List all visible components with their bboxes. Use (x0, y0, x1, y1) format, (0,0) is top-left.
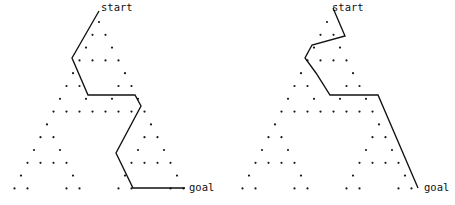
lattice-dot (319, 34, 321, 36)
lattice-dot (274, 123, 276, 125)
left-route-polyline (72, 11, 185, 188)
lattice-dot (72, 175, 74, 177)
lattice-dot (143, 136, 145, 138)
lattice-dot (358, 162, 360, 164)
lattice-dot (365, 98, 367, 100)
lattice-dot (332, 59, 334, 61)
lattice-dot (85, 47, 87, 49)
lattice-dot (124, 175, 126, 177)
lattice-dot (352, 72, 354, 74)
lattice-dot (130, 111, 132, 113)
lattice-dot (39, 136, 41, 138)
right-start-label: start (332, 2, 364, 13)
lattice-dot (156, 162, 158, 164)
lattice-dot (254, 187, 256, 189)
left-start-label: start (101, 2, 133, 13)
lattice-dot (339, 98, 341, 100)
lattice-dot (72, 72, 74, 74)
lattice-dot (306, 187, 308, 189)
lattice-dot (313, 47, 315, 49)
lattice-dot (169, 162, 171, 164)
lattice-dot (293, 187, 295, 189)
lattice-dot (176, 175, 178, 177)
lattice-dot (287, 149, 289, 151)
lattice-dot (91, 59, 93, 61)
lattice-dot (293, 162, 295, 164)
lattice-dot (384, 136, 386, 138)
lattice-dot (319, 111, 321, 113)
lattice-dot (143, 162, 145, 164)
lattice-dot (293, 111, 295, 113)
lattice-dot (143, 111, 145, 113)
lattice-dot (26, 162, 28, 164)
lattice-dot (91, 34, 93, 36)
right-goal-label: goal (424, 182, 449, 193)
lattice-dot (241, 187, 243, 189)
lattice-dot (267, 136, 269, 138)
lattice-dot (397, 187, 399, 189)
lattice-dot (59, 149, 61, 151)
lattice-dot (65, 162, 67, 164)
lattice-dot (410, 187, 412, 189)
lattice-dot (98, 21, 100, 23)
lattice-dot (46, 123, 48, 125)
lattice-dot (371, 111, 373, 113)
lattice-dot (319, 59, 321, 61)
left-panel-canvas (0, 0, 227, 205)
lattice-dot (150, 123, 152, 125)
lattice-dot (345, 59, 347, 61)
lattice-dot (280, 111, 282, 113)
lattice-dot (52, 136, 54, 138)
lattice-dot (345, 187, 347, 189)
left-goal-label: goal (189, 182, 214, 193)
right-route-polyline (305, 8, 418, 188)
lattice-dot (332, 34, 334, 36)
lattice-dot (104, 34, 106, 36)
lattice-dot (85, 98, 87, 100)
lattice-dot (117, 85, 119, 87)
lattice-dot (267, 162, 269, 164)
lattice-dot (248, 175, 250, 177)
lattice-dot (391, 149, 393, 151)
lattice-dot (306, 111, 308, 113)
lattice-dot (78, 59, 80, 61)
lattice-dot (280, 136, 282, 138)
right-panel: start goal (228, 0, 455, 205)
lattice-dot (13, 187, 15, 189)
lattice-dot (306, 85, 308, 87)
lattice-dot (358, 187, 360, 189)
lattice-dot (117, 111, 119, 113)
lattice-dot (300, 175, 302, 177)
lattice-dot (163, 149, 165, 151)
lattice-dot (59, 98, 61, 100)
lattice-dot (397, 162, 399, 164)
lattice-dot (293, 85, 295, 87)
lattice-dot (111, 47, 113, 49)
lattice-dot (137, 149, 139, 151)
lattice-dot (124, 72, 126, 74)
lattice-dot (78, 111, 80, 113)
lattice-dot (358, 85, 360, 87)
lattice-dot (78, 187, 80, 189)
lattice-dot (26, 187, 28, 189)
lattice-dot (156, 136, 158, 138)
lattice-dot (78, 85, 80, 87)
lattice-dot (384, 162, 386, 164)
figure-root: start goal start goal (0, 0, 455, 205)
lattice-dot (345, 111, 347, 113)
lattice-dot (65, 111, 67, 113)
lattice-dot (91, 111, 93, 113)
lattice-dot (111, 98, 113, 100)
lattice-dot (130, 85, 132, 87)
lattice-dot (378, 123, 380, 125)
lattice-dot (33, 149, 35, 151)
lattice-dot (52, 162, 54, 164)
lattice-dot (339, 47, 341, 49)
lattice-dot (280, 162, 282, 164)
lattice-dot (326, 21, 328, 23)
lattice-dot (65, 85, 67, 87)
lattice-dot (65, 187, 67, 189)
lattice-dot (130, 162, 132, 164)
left-lattice-dots (13, 21, 184, 190)
lattice-dot (39, 162, 41, 164)
